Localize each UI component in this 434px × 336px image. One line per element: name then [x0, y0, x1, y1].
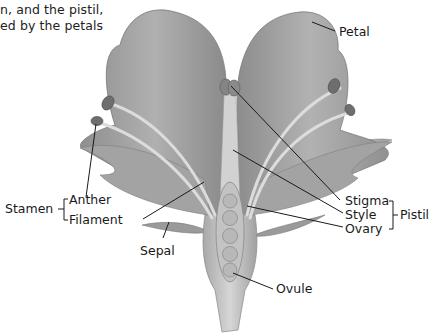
label-pistil: Pistil — [400, 208, 429, 222]
label-stigma: Stigma — [345, 194, 389, 208]
label-sepal: Sepal — [140, 244, 175, 258]
sepal-right — [252, 215, 325, 236]
label-ovule: Ovule — [276, 282, 312, 296]
stigma — [220, 79, 240, 96]
label-stamen: Stamen — [5, 202, 53, 216]
label-ovary: Ovary — [345, 222, 382, 236]
label-style: Style — [345, 208, 376, 222]
label-petal: Petal — [339, 25, 370, 39]
flower-diagram — [0, 0, 434, 336]
sepal-left — [142, 222, 210, 233]
label-anther: Anther — [69, 193, 111, 207]
label-filament: Filament — [69, 213, 123, 227]
